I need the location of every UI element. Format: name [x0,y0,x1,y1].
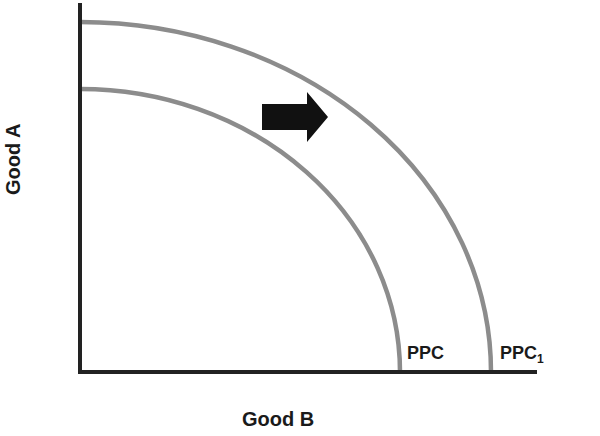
ppc-label: PPC [407,343,444,364]
ppc1-label-subscript: 1 [537,352,544,366]
ppc-diagram [0,0,600,436]
shift-right-arrow-icon [262,92,328,142]
ppc1-curve [80,22,491,372]
x-axis-label: Good B [242,408,314,431]
ppc1-label-main: PPC [500,343,537,363]
y-axis-label: Good A [2,105,25,195]
ppc1-label: PPC1 [500,343,544,366]
ppc-curve [80,89,400,372]
